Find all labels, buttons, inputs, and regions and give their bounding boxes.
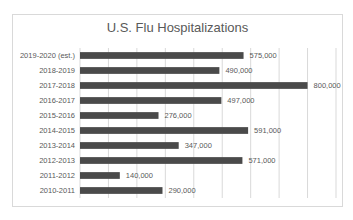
category-label: 2015-2016: [39, 111, 75, 120]
data-label: 571,000: [248, 156, 275, 165]
category-label: 2014-2015: [39, 126, 75, 135]
data-label: 800,000: [314, 81, 341, 90]
bar: [80, 67, 219, 74]
category-label: 2011-2012: [40, 171, 75, 180]
category-labels: 2019-2020 (est.)2018-20192017-20182016-2…: [20, 51, 76, 195]
data-label: 290,000: [168, 186, 195, 195]
category-label: 2016-2017: [39, 96, 75, 105]
category-label: 2013-2014: [39, 141, 75, 150]
data-label: 497,000: [227, 96, 254, 105]
category-label: 2012-2013: [39, 156, 75, 165]
bar-chart: 2019-2020 (est.)2018-20192017-20182016-2…: [0, 0, 353, 220]
data-label: 140,000: [126, 171, 153, 180]
bar: [80, 112, 159, 119]
bar: [80, 127, 248, 134]
bar: [80, 157, 242, 164]
bar: [80, 97, 221, 104]
data-label: 591,000: [254, 126, 281, 135]
bar: [80, 82, 308, 89]
bar: [80, 52, 244, 59]
bar: [80, 142, 179, 149]
bar: [80, 172, 120, 179]
data-label: 490,000: [225, 66, 252, 75]
category-label: 2017-2018: [39, 81, 75, 90]
bar: [80, 187, 162, 194]
data-label: 575,000: [250, 51, 277, 60]
category-label: 2019-2020 (est.): [20, 51, 76, 60]
data-label: 347,000: [185, 141, 212, 150]
data-label: 276,000: [165, 111, 192, 120]
category-label: 2018-2019: [39, 66, 75, 75]
category-label: 2010-2011: [40, 186, 75, 195]
